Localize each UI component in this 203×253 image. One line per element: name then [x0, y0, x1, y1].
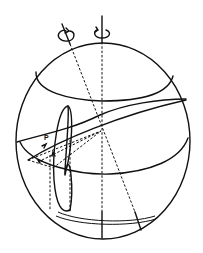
sphere-outline — [16, 43, 190, 239]
arrowhead-p — [42, 144, 46, 148]
tilted-axis-bottom — [135, 212, 141, 230]
top-cap-curve — [36, 72, 173, 101]
bottom-rim-inner — [56, 216, 156, 224]
lower-band-curve — [20, 138, 188, 174]
dashed-line-3 — [53, 131, 101, 168]
sphere-diagram: P — [0, 0, 203, 253]
p-trajectory-curve — [28, 100, 186, 160]
point-p-label: P — [44, 134, 49, 141]
bottom-rim-outer — [58, 212, 155, 221]
